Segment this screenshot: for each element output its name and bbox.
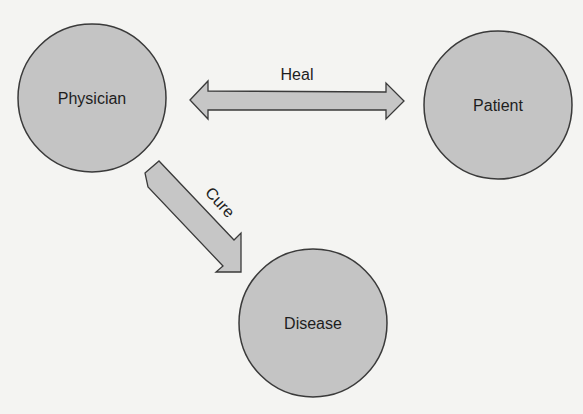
patient-label: Patient xyxy=(473,97,523,114)
node-patient: Patient xyxy=(424,31,572,179)
double-arrow-icon xyxy=(190,81,404,119)
disease-label: Disease xyxy=(284,315,342,332)
node-disease: Disease xyxy=(239,249,387,397)
heal-label: Heal xyxy=(281,66,314,83)
relationship-diagram: Physician Patient Disease Heal Cure xyxy=(0,0,583,414)
physician-label: Physician xyxy=(58,90,126,107)
node-physician: Physician xyxy=(18,24,166,172)
edge-heal: Heal xyxy=(190,66,404,119)
edge-cure: Cure xyxy=(145,161,241,272)
